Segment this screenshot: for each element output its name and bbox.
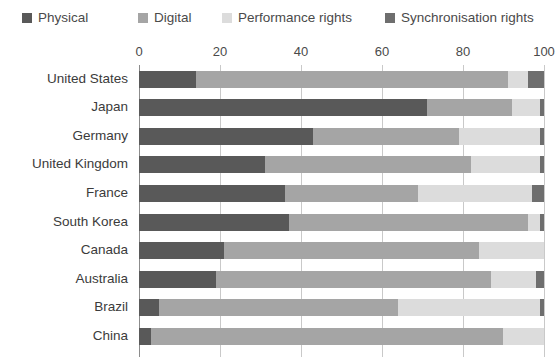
bar-segment-synchronisation[interactable] [540,128,544,145]
bar-segment-digital[interactable] [151,328,503,345]
category-label-united-kingdom: United Kingdom [32,157,128,171]
legend-item-digital[interactable]: Digital [138,11,192,25]
bar-segment-digital[interactable] [313,128,459,145]
x-tick-100: 100 [533,44,555,59]
bar-segment-synchronisation[interactable] [540,299,544,316]
bar-row [139,271,544,288]
bar-row [139,214,544,231]
bar-segment-physical[interactable] [139,99,427,116]
category-label-united-states: United States [47,72,128,86]
bar-segment-performance[interactable] [503,328,544,345]
category-label-australia: Australia [75,272,128,286]
legend-swatch-physical [22,13,32,23]
bar-row [139,328,544,345]
category-label-germany: Germany [72,129,128,143]
legend-label-synchronisation: Synchronisation rights [401,11,534,25]
bar-segment-performance[interactable] [459,128,540,145]
legend-label-digital: Digital [154,11,192,25]
category-label-brazil: Brazil [94,300,128,314]
bar-segment-digital[interactable] [216,271,491,288]
bar-segment-performance[interactable] [471,156,540,173]
bar-segment-digital[interactable] [224,242,479,259]
bar-segment-physical[interactable] [139,271,216,288]
bar-segment-physical[interactable] [139,185,285,202]
x-tick-60: 60 [375,44,389,59]
bar-row [139,99,544,116]
legend-label-physical: Physical [38,11,88,25]
legend-item-performance[interactable]: Performance rights [222,11,352,25]
bar-segment-digital[interactable] [289,214,528,231]
bar-segment-physical[interactable] [139,214,289,231]
bar-segment-performance[interactable] [508,71,528,88]
bar-segment-physical[interactable] [139,156,265,173]
bar-row [139,156,544,173]
bar-segment-synchronisation[interactable] [536,271,544,288]
bar-segment-performance[interactable] [528,214,540,231]
category-label-china: China [93,329,128,343]
bar-segment-physical[interactable] [139,71,196,88]
bar-segment-synchronisation[interactable] [540,156,544,173]
bar-segment-performance[interactable] [512,99,540,116]
bar-segment-synchronisation[interactable] [540,214,544,231]
category-label-canada: Canada [81,243,128,257]
bar-row [139,185,544,202]
bar-segment-digital[interactable] [159,299,398,316]
bar-segment-digital[interactable] [265,156,472,173]
bar-segment-physical[interactable] [139,299,159,316]
bar-segment-performance[interactable] [479,242,544,259]
chart-legend: PhysicalDigitalPerformance rightsSynchro… [0,0,551,36]
legend-swatch-digital [138,13,148,23]
category-label-japan: Japan [91,100,128,114]
category-label-france: France [86,186,128,200]
legend-item-physical[interactable]: Physical [22,11,88,25]
legend-label-performance: Performance rights [238,11,352,25]
bar-row [139,242,544,259]
bar-segment-performance[interactable] [398,299,540,316]
bar-rows [139,65,544,357]
bar-segment-physical[interactable] [139,242,224,259]
legend-swatch-performance [222,13,232,23]
bar-segment-digital[interactable] [427,99,512,116]
x-tick-40: 40 [294,44,308,59]
bar-segment-digital[interactable] [285,185,419,202]
plot-area [139,65,544,357]
bar-row [139,71,544,88]
x-tick-0: 0 [135,44,142,59]
legend-item-synchronisation[interactable]: Synchronisation rights [385,11,534,25]
x-tick-20: 20 [213,44,227,59]
gridline-100 [544,65,545,357]
x-axis-tick-labels: 020406080100 [0,44,551,62]
bar-segment-synchronisation[interactable] [540,99,544,116]
bar-segment-synchronisation[interactable] [528,71,544,88]
bar-segment-physical[interactable] [139,328,151,345]
bar-row [139,299,544,316]
y-axis-category-labels: United StatesJapanGermanyUnited KingdomF… [0,65,136,357]
bar-segment-physical[interactable] [139,128,313,145]
bar-row [139,128,544,145]
bar-segment-synchronisation[interactable] [532,185,544,202]
x-tick-80: 80 [456,44,470,59]
legend-swatch-synchronisation [385,13,395,23]
category-label-south-korea: South Korea [53,215,128,229]
bar-segment-digital[interactable] [196,71,508,88]
bar-segment-performance[interactable] [418,185,531,202]
bar-segment-performance[interactable] [491,271,536,288]
